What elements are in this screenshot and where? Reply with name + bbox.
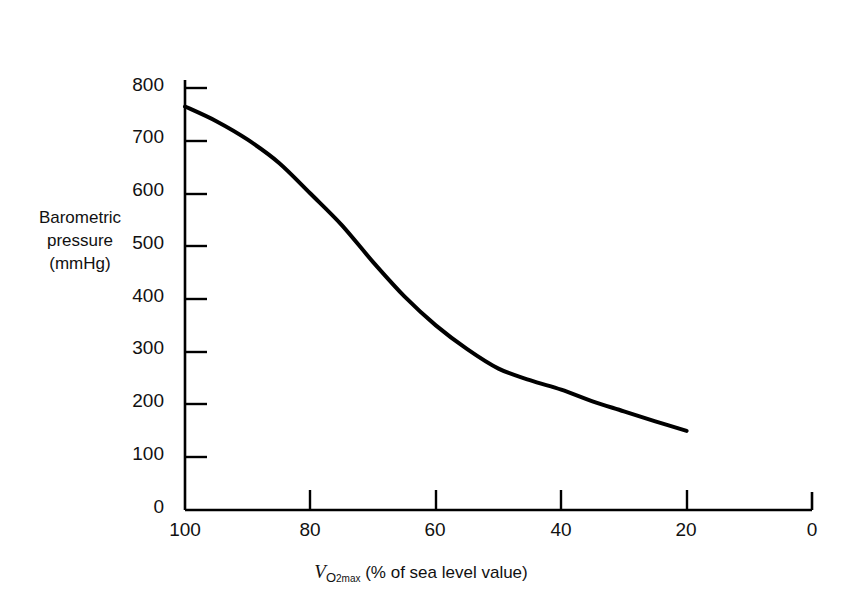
data-series-line <box>185 107 687 431</box>
x-axis-title-sub-max: max <box>342 573 361 584</box>
x-axis-title-v: V <box>314 561 326 582</box>
x-axis-title-sub-o: O <box>326 570 336 585</box>
y-tick-marks <box>185 88 207 457</box>
chart-figure: Barometric pressure (mmHg) 0 100 200 300… <box>0 0 842 609</box>
x-axis-title-rest: (% of sea level value) <box>365 563 528 582</box>
x-axis-title: VO2max (% of sea level value) <box>0 561 842 585</box>
x-tick-marks <box>310 490 687 510</box>
plot-area <box>0 0 842 609</box>
